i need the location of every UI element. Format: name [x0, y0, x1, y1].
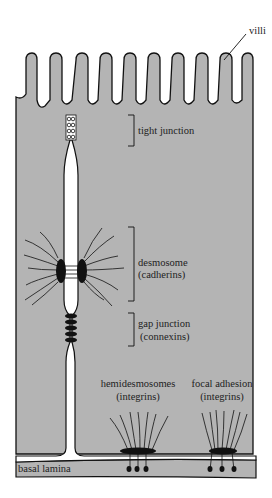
focal-adhesion-label: focal adhesion — [186, 378, 258, 390]
hemidesmosomes-label: hemidesmosomes — [100, 378, 176, 390]
desmosome-protein-label: (cadherins) — [138, 269, 185, 281]
gap-junction-label: gap junction — [138, 318, 190, 330]
villi-label: villi — [249, 25, 266, 37]
hemidesmosomes-protein-label: (integrins) — [100, 391, 176, 403]
gap-junction-protein-label: (connexins) — [140, 331, 190, 343]
desmosome-label: desmosome — [138, 257, 188, 269]
basal-lamina-label: basal lamina — [18, 463, 71, 475]
tight-junction-label: tight junction — [138, 125, 194, 137]
focal-adhesion-protein-label: (integrins) — [186, 391, 258, 403]
tight-junction-structure — [66, 115, 76, 140]
cell-junction-diagram — [0, 0, 272, 498]
